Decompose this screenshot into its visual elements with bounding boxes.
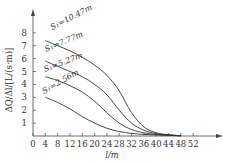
x-tick-label: 12: [65, 139, 76, 149]
y-axis-label: ΔQ/Δl/[L/(s·m)]: [4, 48, 14, 113]
x-tick-label: 48: [175, 139, 186, 149]
y-tick-label: 7: [22, 41, 27, 51]
curves: [45, 41, 181, 136]
x-tick-label: 32: [126, 139, 137, 149]
curve-label: S₁=7.77m: [43, 29, 84, 53]
x-tick-label: 28: [114, 139, 125, 149]
x-tick-labels: 0481216202428323640444852: [30, 139, 198, 149]
x-tick-label: 0: [30, 139, 35, 149]
x-axis-label: l/m: [105, 150, 119, 160]
curve-label: S₁=5.27m: [42, 51, 84, 74]
line-chart: 12345678 0481216202428323640444852 S₁=10…: [0, 0, 232, 164]
y-tick-label: 1: [22, 118, 27, 128]
y-tick-labels: 12345678: [22, 28, 27, 128]
x-tick-label: 40: [151, 139, 162, 149]
x-tick-label: 52: [188, 139, 199, 149]
x-tick-label: 24: [102, 139, 113, 149]
y-tick-label: 3: [22, 92, 27, 102]
y-tick-label: 8: [22, 28, 27, 38]
y-tick-label: 5: [22, 67, 27, 77]
x-tick-label: 4: [43, 139, 48, 149]
x-tick-label: 16: [77, 139, 88, 149]
x-axis-arrow-icon: [216, 134, 223, 138]
x-tick-label: 8: [55, 139, 60, 149]
curve-label: S₁=10.47m: [49, 3, 94, 32]
y-tick-label: 4: [22, 79, 27, 89]
x-tick-label: 36: [138, 139, 149, 149]
y-tick-label: 2: [22, 105, 27, 115]
x-tick-label: 20: [89, 139, 100, 149]
y-ticks: [33, 33, 36, 123]
y-axis-arrow-icon: [31, 9, 35, 16]
curve-4: [45, 97, 181, 135]
curve-1: [45, 41, 181, 136]
x-tick-label: 44: [163, 139, 174, 149]
y-tick-label: 6: [22, 54, 27, 64]
